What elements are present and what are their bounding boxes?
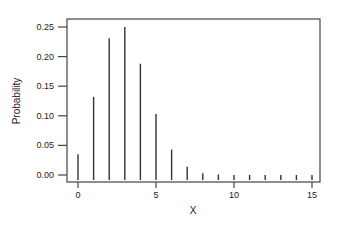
- probability-chart: 0.000.050.100.150.200.25 051015 X Probab…: [0, 0, 343, 230]
- x-tick-label: 5: [153, 190, 158, 200]
- x-tick-label: 15: [307, 190, 317, 200]
- plot-frame: [67, 19, 320, 182]
- x-axis: 051015: [75, 182, 317, 200]
- x-tick-label: 10: [229, 190, 239, 200]
- y-axis-label: Probability: [11, 78, 22, 125]
- y-tick-label: 0.25: [36, 22, 54, 32]
- bars: [78, 27, 312, 180]
- x-axis-label: X: [190, 205, 197, 216]
- y-tick-label: 0.00: [36, 170, 54, 180]
- x-tick-label: 0: [75, 190, 80, 200]
- y-tick-label: 0.10: [36, 111, 54, 121]
- y-axis: 0.000.050.100.150.200.25: [36, 22, 67, 180]
- y-tick-label: 0.05: [36, 140, 54, 150]
- y-tick-label: 0.15: [36, 81, 54, 91]
- y-tick-label: 0.20: [36, 52, 54, 62]
